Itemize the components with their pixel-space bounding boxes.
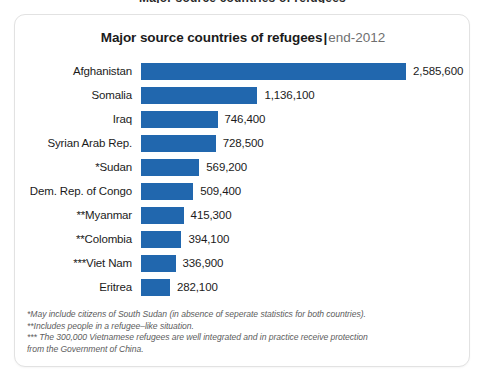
bar-track: 1,136,100 <box>141 83 459 107</box>
bar <box>141 135 216 152</box>
chart-title-period: end-2012 <box>328 30 385 45</box>
bar-value-label: 394,100 <box>181 233 229 245</box>
chart-bar-row: Syrian Arab Rep.728,500 <box>27 131 459 155</box>
bar-value-label: 282,100 <box>170 281 218 293</box>
bar-track: 509,400 <box>141 179 459 203</box>
chart-bar-row: Afghanistan2,585,600 <box>27 59 459 83</box>
bar-track: 2,585,600 <box>141 59 463 83</box>
bar-value-label: 569,200 <box>199 161 247 173</box>
chart-bar-row: **Colombia394,100 <box>27 227 459 251</box>
bar <box>141 231 181 248</box>
chart-bar-row: Dem. Rep. of Congo509,400 <box>27 179 459 203</box>
bar-category-label: Somalia <box>27 89 141 101</box>
footnote-line-3: *** The 300,000 Vietnamese refugees are … <box>27 332 457 344</box>
bar-category-label: **Colombia <box>27 233 141 245</box>
bar-value-label: 728,500 <box>216 137 264 149</box>
bar-category-label: Syrian Arab Rep. <box>27 137 141 149</box>
bar <box>141 207 184 224</box>
bar <box>141 111 218 128</box>
footnote-line-4: from the Government of China. <box>27 344 457 356</box>
bar-value-label: 2,585,600 <box>406 65 463 77</box>
bar-track: 282,100 <box>141 275 459 299</box>
bar <box>141 159 199 176</box>
bar-track: 569,200 <box>141 155 459 179</box>
clipped-page-heading: Major source countries of refugees <box>0 0 485 3</box>
bar <box>141 255 176 272</box>
chart-title-main: Major source countries of refugees <box>101 30 323 45</box>
bar <box>141 87 257 104</box>
chart-footnotes: *May include citizens of South Sudan (in… <box>27 309 457 355</box>
bar-track: 394,100 <box>141 227 459 251</box>
bar-category-label: ***Viet Nam <box>27 257 141 269</box>
bar <box>141 183 193 200</box>
bar-category-label: Dem. Rep. of Congo <box>27 185 141 197</box>
chart-title: Major source countries of refugees|end-2… <box>15 30 471 45</box>
bar <box>141 279 170 296</box>
bar-value-label: 336,900 <box>176 257 224 269</box>
bar-value-label: 509,400 <box>193 185 241 197</box>
bar-track: 746,400 <box>141 107 459 131</box>
chart-bar-row: **Myanmar415,300 <box>27 203 459 227</box>
chart-bar-row: Iraq746,400 <box>27 107 459 131</box>
bar-track: 336,900 <box>141 251 459 275</box>
chart-bar-row: ***Viet Nam336,900 <box>27 251 459 275</box>
footnote-line-1: *May include citizens of South Sudan (in… <box>27 309 457 321</box>
bar-category-label: Eritrea <box>27 281 141 293</box>
bar-value-label: 415,300 <box>184 209 232 221</box>
bar-chart-plot: Afghanistan2,585,600Somalia1,136,100Iraq… <box>27 59 459 307</box>
footnote-line-2: **Includes people in a refugee–like situ… <box>27 321 457 333</box>
chart-card: Major source countries of refugees|end-2… <box>14 14 470 367</box>
bar-value-label: 746,400 <box>218 113 266 125</box>
bar-track: 728,500 <box>141 131 459 155</box>
chart-bar-row: Somalia1,136,100 <box>27 83 459 107</box>
chart-screenshot: Major source countries of refugees Major… <box>0 0 485 380</box>
bar-track: 415,300 <box>141 203 459 227</box>
bar-category-label: Afghanistan <box>27 65 141 77</box>
chart-bar-row: Eritrea282,100 <box>27 275 459 299</box>
bar-category-label: **Myanmar <box>27 209 141 221</box>
chart-bar-row: *Sudan569,200 <box>27 155 459 179</box>
bar <box>141 63 406 80</box>
bar-category-label: Iraq <box>27 113 141 125</box>
bar-value-label: 1,136,100 <box>257 89 314 101</box>
bar-category-label: *Sudan <box>27 161 141 173</box>
